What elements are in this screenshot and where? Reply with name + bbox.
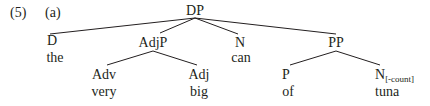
node-adjp: AdjP <box>139 36 168 50</box>
feature-count: [-count] <box>385 74 414 84</box>
edge-pp-n <box>336 51 380 65</box>
example-letter: (a) <box>45 6 61 20</box>
node-p: P <box>282 68 290 82</box>
edge-adjp-adv <box>107 51 153 65</box>
node-adv: Adv <box>92 68 116 82</box>
word-of: of <box>282 85 294 99</box>
edge-dp-d <box>50 18 195 34</box>
edge-pp-p <box>290 51 336 65</box>
word-big: big <box>190 85 208 99</box>
edge-adjp-adj <box>153 51 197 65</box>
node-n-count-label: N <box>375 67 385 82</box>
word-tuna: tuna <box>375 85 399 99</box>
node-d: D <box>47 34 57 48</box>
example-number: (5) <box>10 6 26 20</box>
node-pp: PP <box>328 36 344 50</box>
tree-edges <box>0 0 430 106</box>
node-dp: DP <box>186 4 204 18</box>
word-the: the <box>46 51 63 65</box>
word-can: can <box>231 51 250 65</box>
word-very: very <box>92 85 117 99</box>
node-adj: Adj <box>189 68 210 82</box>
node-n: N <box>235 36 245 50</box>
